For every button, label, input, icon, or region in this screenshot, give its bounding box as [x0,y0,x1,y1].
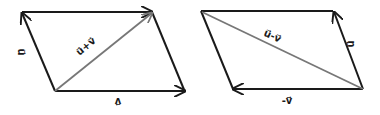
vector-sum-diagonal [55,13,152,91]
label-neg-v: -v⃗ [282,95,293,106]
label-u-left: u⃗ [16,48,27,55]
label-v-left: v⃗ [114,96,121,107]
edge-right [152,12,185,92]
right-parallelogram: u⃗-v⃗ u⃗ -v⃗ [201,11,363,106]
edge-left [201,11,233,89]
left-parallelogram: u⃗ u⃗+v⃗ v⃗ [16,12,185,107]
parallelogram-diagrams: u⃗ u⃗+v⃗ v⃗ u⃗-v⃗ u⃗ -v⃗ [0,0,380,115]
label-sum: u⃗+v⃗ [74,35,98,58]
label-u-right: u⃗ [345,40,356,47]
